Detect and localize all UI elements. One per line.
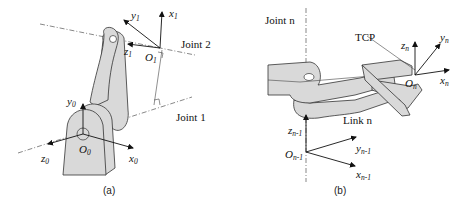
- label-zn: zn: [400, 39, 409, 53]
- caption-a: (a): [103, 185, 115, 196]
- label-y1: y1: [130, 9, 140, 23]
- label-joint-1: Joint 1: [176, 111, 206, 123]
- right-angle-mark-2: [154, 99, 160, 105]
- panel-b: Joint n TCP Link n zn yn xn On zn-1 yn-1…: [265, 8, 449, 196]
- label-On: On: [405, 77, 417, 91]
- label-y0: y0: [66, 95, 76, 109]
- robot-link-frames-diagram: y0 z0 x0 O0 x1 y1 z1 O1 Joint 2 Joint 1 …: [0, 0, 456, 207]
- label-O1: O1: [145, 51, 157, 65]
- label-yn-1: yn-1: [355, 142, 371, 156]
- label-zn-1: zn-1: [287, 124, 302, 138]
- label-z1: z1: [123, 45, 132, 59]
- label-xn: xn: [439, 74, 449, 88]
- joint-2-hole: [110, 36, 117, 43]
- label-joint-2: Joint 2: [181, 38, 211, 50]
- yn-1-axis: [306, 137, 356, 152]
- panel-a: y0 z0 x0 O0 x1 y1 z1 O1 Joint 2 Joint 1 …: [18, 7, 211, 196]
- label-xn-1: xn-1: [355, 168, 371, 182]
- yn-axis: [415, 44, 440, 75]
- label-x0: x0: [128, 152, 138, 166]
- label-joint-n: Joint n: [265, 14, 295, 26]
- right-angle-mark-1: [158, 52, 163, 58]
- joint-n-hole: [304, 74, 314, 81]
- caption-b: (b): [334, 185, 346, 196]
- label-z0: z0: [40, 152, 49, 166]
- label-x1: x1: [168, 7, 178, 21]
- label-yn: yn: [439, 31, 449, 45]
- label-On-1: On-1: [285, 148, 303, 162]
- label-link-n: Link n: [343, 114, 373, 126]
- xn-1-axis: [306, 152, 355, 166]
- x1-axis: [160, 12, 162, 48]
- label-tcp: TCP: [355, 31, 375, 43]
